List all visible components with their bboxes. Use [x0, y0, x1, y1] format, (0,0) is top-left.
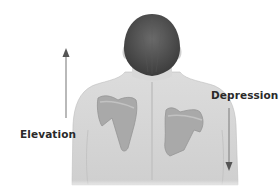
head	[123, 14, 182, 76]
elevation-label: Elevation	[20, 128, 76, 140]
depression-label: Depression	[211, 89, 278, 101]
elevation-arrow-icon	[63, 48, 70, 118]
